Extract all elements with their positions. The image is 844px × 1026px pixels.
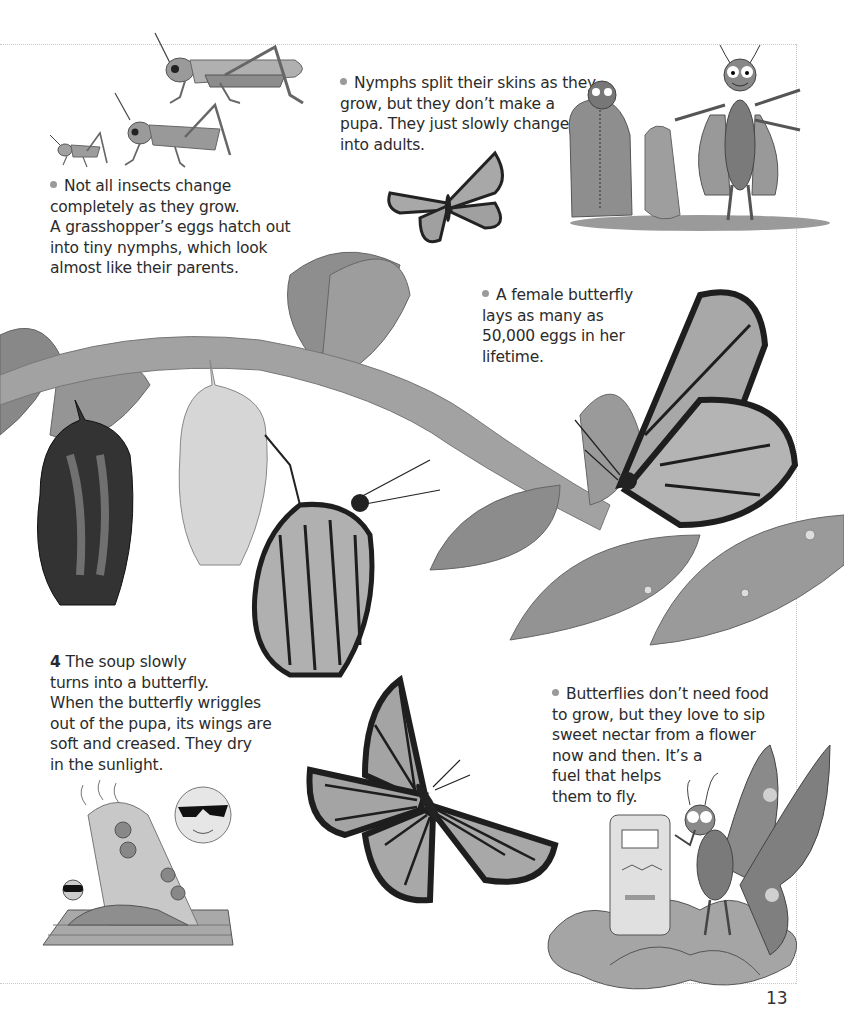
step-4-caption: 4The soup slowly turns into a butterfly.…	[50, 652, 272, 775]
bullet-icon	[552, 689, 559, 696]
nymph-shedding-cartoon	[560, 35, 830, 235]
branch-with-chrysalises	[0, 235, 844, 685]
page-number: 13	[766, 988, 788, 1008]
nectar-pump-cartoon	[540, 735, 840, 1005]
sunbathing-butterfly-cartoon	[38, 775, 238, 955]
bullet-icon	[340, 78, 347, 85]
large-flying-monarch	[305, 675, 560, 905]
nymphs-caption: Nymphs split their skins as they grow, b…	[340, 73, 596, 155]
grasshopper-growth-illustration	[45, 25, 315, 170]
small-flying-monarch	[385, 148, 510, 248]
tiny-nymph-icon	[50, 133, 107, 167]
bullet-icon	[50, 181, 57, 188]
step-number: 4	[50, 653, 61, 671]
adult-grasshopper-icon	[155, 33, 303, 103]
nymph-grasshopper-icon	[115, 93, 230, 167]
